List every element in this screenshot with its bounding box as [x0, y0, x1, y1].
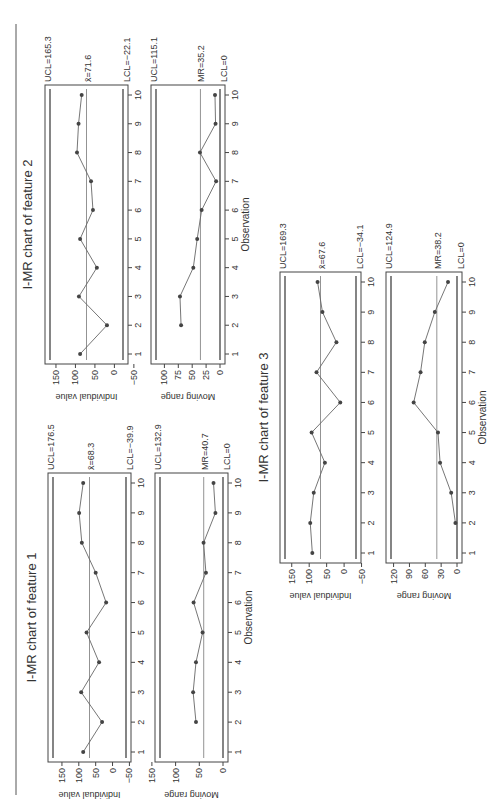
- y-tick-label: 0: [339, 569, 349, 574]
- data-point: [316, 280, 320, 284]
- x-tick-label: 3: [136, 690, 146, 695]
- center-label: x̄=71.6: [83, 55, 93, 82]
- x-tick-label: 7: [233, 570, 243, 575]
- data-point: [200, 208, 204, 212]
- data-point: [449, 491, 453, 495]
- data-point: [412, 400, 416, 404]
- x-tick-label: 6: [133, 208, 143, 213]
- data-point: [89, 179, 93, 183]
- data-point: [423, 340, 427, 344]
- chart-title: I-MR chart of feature 2: [20, 159, 35, 289]
- x-tick-label: 4: [467, 460, 477, 465]
- data-point: [433, 310, 437, 314]
- y-tick-label: 0: [218, 768, 228, 773]
- y-tick-label: 150: [287, 569, 297, 584]
- plot-frame: [155, 473, 228, 762]
- data-point: [75, 151, 79, 155]
- center-label: x̄=67.6: [317, 242, 327, 269]
- x-tick-label: 1: [467, 550, 477, 555]
- data-point: [312, 491, 316, 495]
- x-tick-label: 3: [366, 490, 376, 495]
- data-point: [212, 481, 216, 485]
- ucl-label: UCL=124.9: [384, 223, 394, 269]
- x-tick-label: 4: [230, 265, 240, 270]
- x-tick-label: 9: [366, 310, 376, 315]
- x-tick-label: 9: [467, 310, 477, 315]
- x-tick-label: 5: [230, 236, 240, 241]
- y-tick-label: 30: [436, 569, 446, 579]
- ucl-label: UCL=132.9: [153, 424, 163, 470]
- data-point: [77, 511, 81, 515]
- center-label: x̄=68.3: [86, 443, 96, 470]
- x-tick-label: 10: [133, 90, 143, 100]
- data-point: [191, 690, 195, 694]
- data-point: [446, 280, 450, 284]
- x-tick-label: 2: [467, 520, 477, 525]
- data-point: [79, 690, 83, 694]
- x-tick-label: 4: [233, 660, 243, 665]
- y-tick-label: −50: [129, 370, 139, 385]
- x-tick-label: 8: [133, 150, 143, 155]
- chart-title: I-MR chart of feature 3: [256, 352, 271, 482]
- data-point: [191, 266, 195, 270]
- data-point: [310, 431, 314, 435]
- y-tick-label: 100: [159, 370, 169, 385]
- y-tick-label: 50: [322, 569, 332, 579]
- data-point: [308, 521, 312, 525]
- y-tick-label: 50: [91, 768, 101, 778]
- y-axis-label: Individual value: [58, 790, 120, 800]
- y-tick-label: 0: [108, 768, 118, 773]
- x-tick-label: 4: [366, 460, 376, 465]
- y-axis-label: Individual value: [55, 392, 117, 402]
- individual-panel: UCL=169.3x̄=67.6LCL=−34.1150100500−50Ind…: [278, 223, 376, 601]
- x-tick-label: 3: [467, 490, 477, 495]
- data-point: [178, 294, 182, 298]
- data-series: [310, 282, 340, 553]
- x-tick-label: 9: [233, 510, 243, 515]
- x-tick-label: 1: [136, 749, 146, 754]
- center-label: MR=38.2: [433, 232, 443, 269]
- y-tick-label: 50: [187, 370, 197, 380]
- x-tick-label: 6: [136, 600, 146, 605]
- data-point: [320, 310, 324, 314]
- y-axis-label: Moving range: [164, 790, 219, 800]
- x-tick-label: 10: [467, 277, 477, 287]
- data-point: [438, 461, 442, 465]
- x-tick-label: 5: [233, 630, 243, 635]
- x-tick-label: 7: [133, 179, 143, 184]
- x-tick-label: 3: [230, 294, 240, 299]
- x-axis-label: Observation: [243, 591, 254, 645]
- x-tick-label: 1: [133, 351, 143, 356]
- x-tick-label: 7: [230, 179, 240, 184]
- x-tick-label: 10: [366, 277, 376, 287]
- y-tick-label: 50: [194, 768, 204, 778]
- x-tick-label: 7: [136, 570, 146, 575]
- y-tick-label: 0: [109, 370, 119, 375]
- data-point: [78, 237, 82, 241]
- x-tick-label: 1: [366, 550, 376, 555]
- x-tick-label: 3: [233, 690, 243, 695]
- x-tick-label: 8: [136, 540, 146, 545]
- data-point: [77, 294, 81, 298]
- x-tick-label: 6: [467, 400, 477, 405]
- y-tick-label: 120: [389, 569, 399, 584]
- moving-range-panel: UCL=132.9MR=40.7LCL=0150100500Moving ran…: [147, 424, 254, 800]
- lcl-label: LCL=−22.1: [122, 37, 132, 82]
- data-point: [194, 660, 198, 664]
- data-point: [315, 370, 319, 374]
- x-tick-label: 8: [366, 340, 376, 345]
- data-point: [198, 151, 202, 155]
- y-tick-label: −50: [357, 569, 367, 584]
- individual-panel: UCL=176.5x̄=68.3LCL=−39.9150100500−50Ind…: [46, 424, 146, 800]
- y-tick-label: 90: [404, 569, 414, 579]
- data-series: [193, 483, 215, 722]
- y-tick-label: −50: [124, 768, 134, 783]
- x-tick-label: 2: [136, 720, 146, 725]
- x-tick-label: 8: [233, 540, 243, 545]
- data-point: [334, 340, 338, 344]
- x-tick-label: 5: [136, 630, 146, 635]
- x-tick-label: 8: [230, 150, 240, 155]
- imr-chart-feature-2: I-MR chart of feature 2UCL=165.3x̄=71.6L…: [20, 36, 251, 402]
- x-tick-label: 2: [230, 323, 240, 328]
- y-tick-label: 0: [452, 569, 462, 574]
